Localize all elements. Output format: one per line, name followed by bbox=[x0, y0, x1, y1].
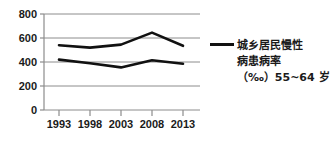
line-chart: 800 600 400 200 0 1993 1998 2003 2008 20… bbox=[0, 0, 205, 141]
data-line-upper bbox=[59, 33, 183, 48]
chart-screenshot: 800 600 400 200 0 1993 1998 2003 2008 20… bbox=[0, 0, 331, 141]
y-tick-label-0: 0 bbox=[31, 104, 37, 116]
y-tick-label-600: 600 bbox=[19, 32, 37, 44]
legend-label-line1: 城乡居民慢性 bbox=[237, 36, 303, 52]
x-tick-label-1998: 1998 bbox=[78, 118, 102, 130]
x-tick-label-2003: 2003 bbox=[109, 118, 133, 130]
y-tick-label-800: 800 bbox=[19, 8, 37, 20]
legend-label-line3-row: （‰）55~64 岁 bbox=[210, 68, 331, 84]
legend-item: 城乡居民慢性 bbox=[210, 36, 331, 52]
x-tick-label-2013: 2013 bbox=[171, 118, 195, 130]
chart-svg: 800 600 400 200 0 1993 1998 2003 2008 20… bbox=[0, 0, 205, 141]
legend-label-line2-row: 病患病率 bbox=[210, 52, 331, 68]
chart-legend: 城乡居民慢性 病患病率 （‰）55~64 岁 bbox=[210, 36, 331, 84]
y-tick-label-200: 200 bbox=[19, 80, 37, 92]
legend-label-line3: （‰）55~64 岁 bbox=[237, 68, 330, 84]
data-line-lower bbox=[59, 60, 183, 68]
x-axis-ticks bbox=[59, 110, 183, 116]
legend-line-marker-icon bbox=[210, 43, 234, 46]
x-tick-label-1993: 1993 bbox=[47, 118, 71, 130]
y-tick-label-400: 400 bbox=[19, 56, 37, 68]
x-tick-label-2008: 2008 bbox=[140, 118, 164, 130]
legend-label-line2: 病患病率 bbox=[237, 52, 281, 68]
